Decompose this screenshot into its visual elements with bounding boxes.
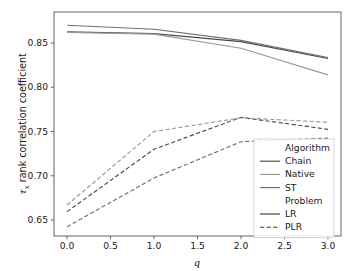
- x-tick-label: 2.5: [277, 240, 292, 251]
- chart-legend[interactable]: AlgorithmChainNativeSTProblemLRPLR: [254, 139, 334, 237]
- legend-group-title-problem: Problem: [285, 195, 323, 206]
- y-tick-label: 0.65: [28, 214, 49, 225]
- y-axis-label-text: rank correlation coefficient: [17, 53, 28, 185]
- legend-label-lr[interactable]: LR: [285, 208, 297, 219]
- y-tick-label: 0.70: [28, 170, 49, 181]
- legend-group-title-algorithm: Algorithm: [285, 142, 330, 153]
- line-chart: 0.00.51.01.52.02.53.0 0.650.700.750.800.…: [0, 0, 359, 271]
- y-axis-ticks: 0.650.700.750.800.85: [28, 37, 54, 225]
- x-tick-label: 1.0: [147, 240, 162, 251]
- legend-label-chain[interactable]: Chain: [285, 155, 311, 166]
- x-tick-label: 1.5: [190, 240, 205, 251]
- legend-label-plr[interactable]: PLR: [285, 221, 303, 232]
- x-tick-label: 0.0: [60, 240, 75, 251]
- legend-label-st[interactable]: ST: [285, 182, 297, 193]
- x-tick-label: 3.0: [321, 240, 336, 251]
- figure-canvas: 0.00.51.01.52.02.53.0 0.650.700.750.800.…: [0, 0, 359, 271]
- legend-label-native[interactable]: Native: [285, 168, 315, 179]
- y-tick-label: 0.85: [28, 37, 49, 48]
- x-axis-label-group: q: [194, 257, 200, 268]
- y-tick-label: 0.75: [28, 126, 49, 137]
- x-axis-label: q: [194, 257, 200, 268]
- x-tick-label: 0.5: [103, 240, 118, 251]
- x-tick-label: 2.0: [234, 240, 249, 251]
- x-axis-ticks: 0.00.51.01.52.02.53.0: [60, 236, 336, 251]
- y-tick-label: 0.80: [28, 81, 49, 92]
